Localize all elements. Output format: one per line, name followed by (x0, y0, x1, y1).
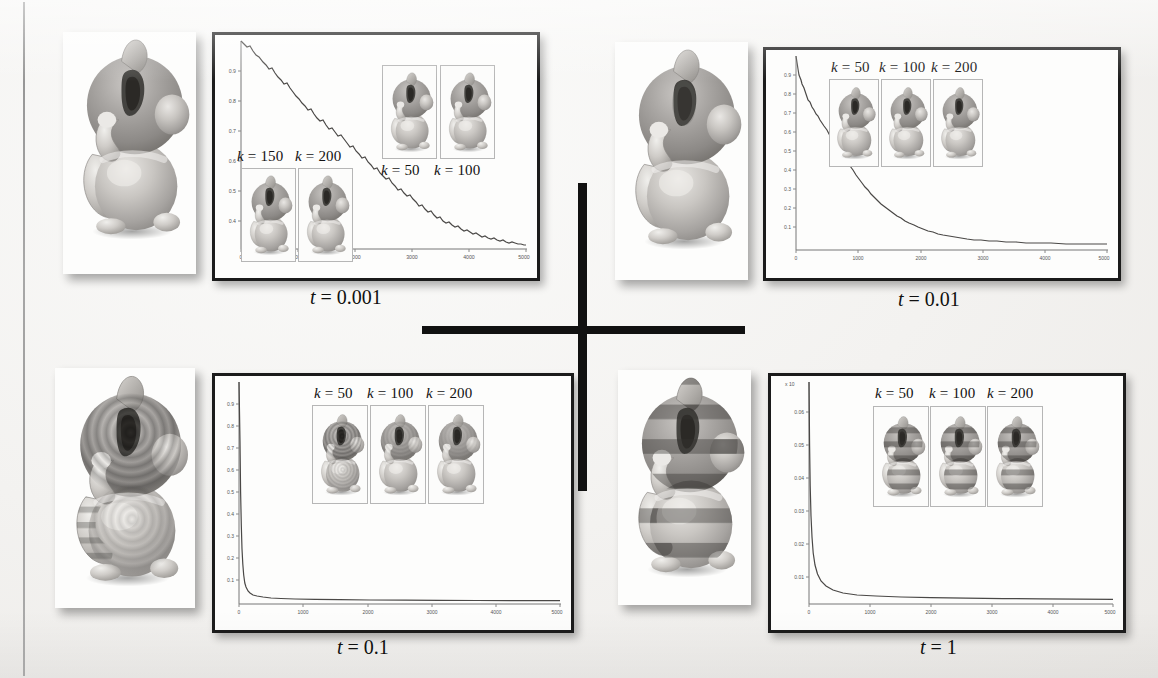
svg-text:0.5: 0.5 (229, 188, 236, 194)
svg-text:0.02: 0.02 (794, 541, 804, 547)
mesh-render-t-0p01 (615, 42, 748, 280)
svg-text:4000: 4000 (490, 609, 501, 615)
divider-horizontal (422, 326, 745, 334)
svg-text:0: 0 (795, 255, 798, 261)
mesh-render-t-0p1 (55, 368, 195, 608)
inset-thumb-k50 (829, 79, 879, 167)
svg-text:2000: 2000 (925, 609, 936, 615)
svg-text:0.5: 0.5 (784, 148, 791, 154)
inset-thumb-k200 (987, 406, 1043, 507)
panel-t-0p001: 0.9 0.8 0.7 0.6 0.5 0.4 0 1000 2000 3000… (0, 0, 578, 330)
svg-text:0.01: 0.01 (794, 574, 804, 580)
inset-label-k200: k = 200 (295, 148, 342, 165)
inset-label-k50: k = 50 (831, 59, 870, 76)
svg-text:0.1: 0.1 (784, 224, 791, 230)
svg-text:0: 0 (808, 609, 811, 615)
svg-text:3000: 3000 (406, 254, 418, 260)
figurine-svg (441, 66, 494, 158)
figurine-svg (988, 407, 1042, 506)
inset-label-k200: k = 200 (931, 59, 978, 76)
svg-text:1000: 1000 (297, 609, 308, 615)
svg-text:0.2: 0.2 (227, 555, 234, 561)
figurine-svg (313, 406, 367, 503)
svg-text:0.1: 0.1 (227, 577, 234, 583)
inset-label-k150: k = 150 (237, 148, 284, 165)
svg-text:3000: 3000 (986, 609, 997, 615)
divider-vertical (578, 183, 587, 491)
svg-text:0.2: 0.2 (784, 205, 791, 211)
svg-text:0.04: 0.04 (794, 475, 804, 481)
panel-t-0p1: 0.9 0.8 0.7 0.6 0.5 0.4 0.3 0.2 0.1 0 10… (0, 340, 578, 678)
figurine-svg (383, 66, 436, 158)
svg-text:0.9: 0.9 (229, 68, 236, 74)
svg-text:0.7: 0.7 (229, 128, 236, 134)
svg-text:0.6: 0.6 (784, 129, 791, 135)
panel-caption-t-0p001: t = 0.001 (310, 286, 382, 309)
figurine-svg (882, 80, 930, 166)
plot-t-1: x 10 0.06 0.05 0.04 0.03 0.02 0.01 0 100… (768, 373, 1126, 633)
svg-text:5000: 5000 (1098, 255, 1109, 261)
svg-text:0.8: 0.8 (229, 98, 236, 104)
svg-text:0.4: 0.4 (229, 218, 236, 224)
svg-text:0.8: 0.8 (784, 91, 791, 97)
inset-label-k200: k = 200 (426, 385, 473, 402)
figurine-svg (931, 407, 985, 506)
figurine-svg (615, 42, 748, 255)
figurine-svg (63, 32, 196, 245)
inset-label-k100: k = 100 (879, 59, 926, 76)
inset-thumb-k100 (881, 79, 931, 167)
svg-text:0.3: 0.3 (227, 533, 234, 539)
inset-thumb-k50 (873, 406, 929, 507)
svg-text:1000: 1000 (864, 609, 875, 615)
svg-text:0.03: 0.03 (794, 508, 804, 514)
inset-thumb-k200 (428, 405, 484, 504)
svg-text:0: 0 (238, 609, 241, 615)
svg-text:5000: 5000 (551, 609, 562, 615)
inset-thumb-k100 (440, 65, 495, 159)
panel-t-0p01: 0.9 0.8 0.7 0.6 0.5 0.4 0.3 0.2 0.1 0 10… (580, 0, 1158, 330)
mesh-render-t-1 (618, 370, 751, 605)
svg-text:0.4: 0.4 (227, 511, 234, 517)
inset-thumb-k100 (930, 406, 986, 507)
svg-text:0.3: 0.3 (784, 186, 791, 192)
plot-t-0p1: 0.9 0.8 0.7 0.6 0.5 0.4 0.3 0.2 0.1 0 10… (212, 373, 574, 633)
inset-thumb-k200 (298, 168, 353, 262)
svg-text:5000: 5000 (518, 254, 530, 260)
inset-label-k50: k = 50 (875, 385, 914, 402)
panel-caption-t-0p01: t = 0.01 (898, 288, 960, 311)
inset-thumb-k100 (370, 405, 426, 504)
panel-t-1: x 10 0.06 0.05 0.04 0.03 0.02 0.01 0 100… (580, 340, 1158, 678)
figure-page: 0.9 0.8 0.7 0.6 0.5 0.4 0 1000 2000 3000… (0, 0, 1158, 678)
svg-text:3000: 3000 (977, 255, 988, 261)
inset-label-k100: k = 100 (929, 385, 976, 402)
inset-thumb-k200 (933, 79, 983, 167)
svg-text:4000: 4000 (1039, 255, 1050, 261)
figurine-svg (830, 80, 878, 166)
inset-thumb-k50 (312, 405, 368, 504)
svg-text:0.6: 0.6 (227, 467, 234, 473)
svg-text:0.9: 0.9 (227, 401, 234, 407)
svg-text:4000: 4000 (463, 254, 475, 260)
plot-t-0p001: 0.9 0.8 0.7 0.6 0.5 0.4 0 1000 2000 3000… (212, 32, 540, 281)
svg-text:x 10: x 10 (785, 381, 795, 387)
svg-text:2000: 2000 (362, 609, 373, 615)
svg-text:0.4: 0.4 (784, 167, 791, 173)
figurine-svg (429, 406, 483, 503)
svg-text:5000: 5000 (1104, 609, 1115, 615)
svg-text:0.05: 0.05 (794, 442, 804, 448)
figurine-svg (618, 370, 751, 583)
svg-text:0.06: 0.06 (794, 409, 804, 415)
svg-text:2000: 2000 (915, 255, 926, 261)
figurine-svg (55, 368, 195, 592)
svg-text:0.9: 0.9 (784, 72, 791, 78)
inset-thumb-k150 (241, 168, 296, 262)
inset-label-k100: k = 100 (434, 162, 481, 179)
figurine-svg (934, 80, 982, 166)
inset-label-k50: k = 50 (381, 162, 420, 179)
panel-caption-t-0p1: t = 0.1 (337, 636, 389, 659)
svg-text:0.6: 0.6 (229, 158, 236, 164)
plot-t-0p01: 0.9 0.8 0.7 0.6 0.5 0.4 0.3 0.2 0.1 0 10… (763, 47, 1121, 281)
svg-text:1000: 1000 (852, 255, 863, 261)
figurine-svg (874, 407, 928, 506)
inset-thumb-k50 (382, 65, 437, 159)
